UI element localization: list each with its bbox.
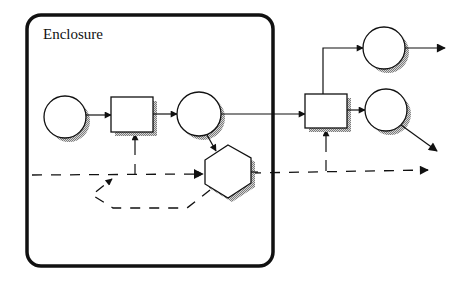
dashed-feedback-loop [92, 179, 210, 208]
transition-1-box[interactable] [111, 97, 153, 132]
place-middle-circle[interactable] [177, 92, 221, 136]
place-input-circle[interactable] [44, 96, 86, 138]
place-output-bottom-circle[interactable] [365, 89, 407, 131]
dashed-control-line-right [251, 170, 428, 173]
transition-2-box[interactable] [305, 94, 347, 128]
enclosure-diagram: Enclosure [0, 0, 462, 284]
edge-transition-2-to-top-output [323, 48, 363, 94]
enclosure-label: Enclosure [43, 26, 103, 42]
place-output-top-circle[interactable] [363, 27, 405, 69]
arrowhead-into-controller [194, 169, 203, 179]
edge-bottom-output-exit [401, 125, 437, 151]
dashed-control-line-left [32, 174, 203, 175]
